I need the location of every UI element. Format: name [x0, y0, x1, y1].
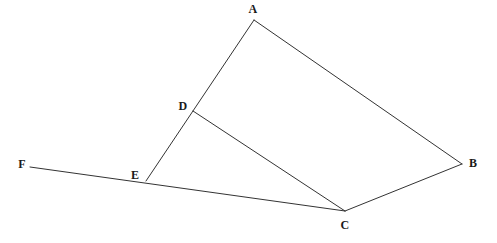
segment-group: [30, 20, 462, 211]
vertex-label-F: F: [18, 158, 26, 170]
vertex-label-C: C: [341, 219, 350, 231]
vertex-label-E: E: [131, 169, 139, 181]
vertex-label-A: A: [249, 3, 258, 15]
vertex-label-B: B: [469, 157, 477, 169]
segment-AB: [254, 20, 462, 164]
diagram-canvas: [0, 0, 497, 243]
segment-FC: [30, 167, 345, 211]
segment-DC: [193, 111, 345, 211]
segment-BC: [345, 164, 462, 211]
vertex-label-D: D: [179, 100, 188, 112]
geometry-diagram: A B C D E F: [0, 0, 497, 243]
segment-AE: [146, 20, 254, 181]
